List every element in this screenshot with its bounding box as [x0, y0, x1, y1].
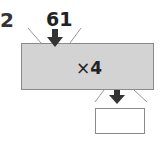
- output-arrow-icon: [109, 90, 125, 104]
- function-machine-question: 2 61 ×4: [0, 0, 166, 144]
- input-arrow-icon: [47, 29, 63, 47]
- answer-input-box[interactable]: [95, 108, 145, 134]
